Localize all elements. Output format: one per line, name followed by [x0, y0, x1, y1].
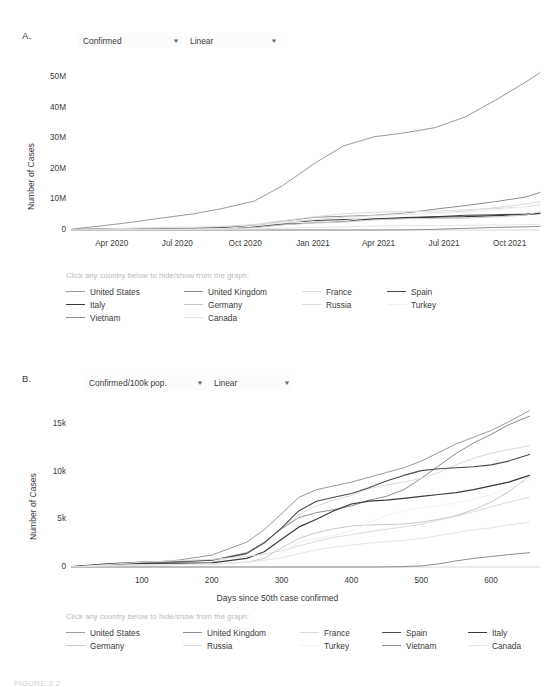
legend-item-label: Spain [411, 287, 432, 297]
legend-swatch-icon [183, 645, 202, 646]
legend-item-france[interactable]: France [302, 285, 387, 298]
legend-item-turkey[interactable]: Turkey [387, 298, 477, 311]
legend-swatch-icon [387, 291, 406, 292]
chart-a-series-united-states[interactable] [72, 73, 540, 229]
legend-swatch-icon [184, 291, 203, 292]
legend-swatch-icon [183, 632, 202, 633]
legend-item-label: Russia [326, 300, 351, 310]
legend-item-label: Vietnam [90, 313, 120, 323]
chart-a-legend-items: United StatesUnited KingdomFranceSpainIt… [66, 285, 496, 324]
legend-swatch-icon [184, 317, 203, 318]
legend-item-label: Italy [492, 628, 507, 638]
chart-a-plot: Number of Cases 010M20M30M40M50M Apr 202… [0, 0, 555, 270]
legend-item-germany[interactable]: Germany [184, 298, 302, 311]
chart-b-plot: Number of Cases 05k10k15k 10020030040050… [0, 340, 555, 600]
legend-item-label: Canada [208, 313, 237, 323]
chart-a-series-canvas [0, 0, 555, 270]
chart-b-legend: Click any country below to hide/show fro… [66, 612, 526, 652]
chart-b-series-spain[interactable] [72, 454, 530, 566]
chart-a-legend-note: Click any country below to hide/show fro… [66, 271, 496, 280]
legend-item-label: Germany [90, 641, 124, 651]
legend-item-label: Russia [207, 641, 232, 651]
legend-item-italy[interactable]: Italy [66, 298, 184, 311]
legend-item-label: Vietnam [406, 641, 436, 651]
chart-a-series-france[interactable] [72, 205, 540, 230]
chart-a-legend: Click any country below to hide/show fro… [66, 271, 496, 324]
legend-item-germany[interactable]: Germany [66, 639, 183, 652]
legend-swatch-icon [468, 645, 487, 646]
legend-swatch-icon [382, 645, 401, 646]
chart-a-series-spain[interactable] [72, 213, 540, 229]
legend-item-russia[interactable]: Russia [183, 639, 300, 652]
legend-item-united-states[interactable]: United States [66, 626, 183, 639]
legend-item-turkey[interactable]: Turkey [300, 639, 382, 652]
legend-item-russia[interactable]: Russia [302, 298, 387, 311]
panel-a: A. Confirmed ▼ Linear ▼ Number of Cases … [0, 0, 555, 340]
legend-item-label: United Kingdom [208, 287, 267, 297]
legend-item-italy[interactable]: Italy [468, 626, 548, 639]
legend-item-label: France [324, 628, 350, 638]
figure-caption: FIGURE 2.2 [14, 679, 61, 687]
legend-item-vietnam[interactable]: Vietnam [382, 639, 468, 652]
legend-item-label: France [326, 287, 352, 297]
legend-item-canada[interactable]: Canada [468, 639, 548, 652]
chart-b-legend-items: United StatesUnited KingdomFranceSpainIt… [66, 626, 526, 652]
legend-item-label: United States [90, 287, 140, 297]
panel-b: B. Confirmed/100k pop. ▼ Linear ▼ Number… [0, 340, 555, 687]
legend-swatch-icon [66, 632, 85, 633]
chart-b-series-canvas [0, 340, 555, 600]
legend-item-united-states[interactable]: United States [66, 285, 184, 298]
legend-item-label: Spain [406, 628, 427, 638]
legend-item-label: United States [90, 628, 140, 638]
legend-swatch-icon [66, 291, 85, 292]
legend-item-label: Turkey [324, 641, 349, 651]
legend-swatch-icon [66, 317, 85, 318]
legend-item-label: Turkey [411, 300, 436, 310]
chart-b-xlabel: Days since 50th case confirmed [0, 593, 555, 603]
legend-swatch-icon [66, 304, 85, 305]
legend-item-label: United Kingdom [207, 628, 266, 638]
chart-b-legend-note: Click any country below to hide/show fro… [66, 612, 526, 621]
chart-b-series-turkey[interactable] [72, 480, 530, 567]
legend-swatch-icon [382, 632, 401, 633]
legend-swatch-icon [468, 632, 487, 633]
legend-swatch-icon [184, 304, 203, 305]
legend-swatch-icon [300, 632, 319, 633]
legend-swatch-icon [302, 291, 321, 292]
legend-swatch-icon [300, 645, 319, 646]
legend-item-spain[interactable]: Spain [382, 626, 468, 639]
legend-item-canada[interactable]: Canada [184, 311, 302, 324]
chart-b-series-france[interactable] [72, 446, 530, 567]
legend-item-united-kingdom[interactable]: United Kingdom [183, 626, 300, 639]
legend-item-label: Germany [208, 300, 242, 310]
legend-item-spain[interactable]: Spain [387, 285, 477, 298]
legend-swatch-icon [66, 645, 85, 646]
legend-item-label: Italy [90, 300, 105, 310]
legend-item-united-kingdom[interactable]: United Kingdom [184, 285, 302, 298]
legend-item-france[interactable]: France [300, 626, 382, 639]
legend-swatch-icon [302, 304, 321, 305]
legend-item-vietnam[interactable]: Vietnam [66, 311, 184, 324]
chart-b-series-united-states[interactable] [72, 411, 530, 567]
legend-item-label: Canada [492, 641, 521, 651]
legend-swatch-icon [387, 304, 406, 305]
